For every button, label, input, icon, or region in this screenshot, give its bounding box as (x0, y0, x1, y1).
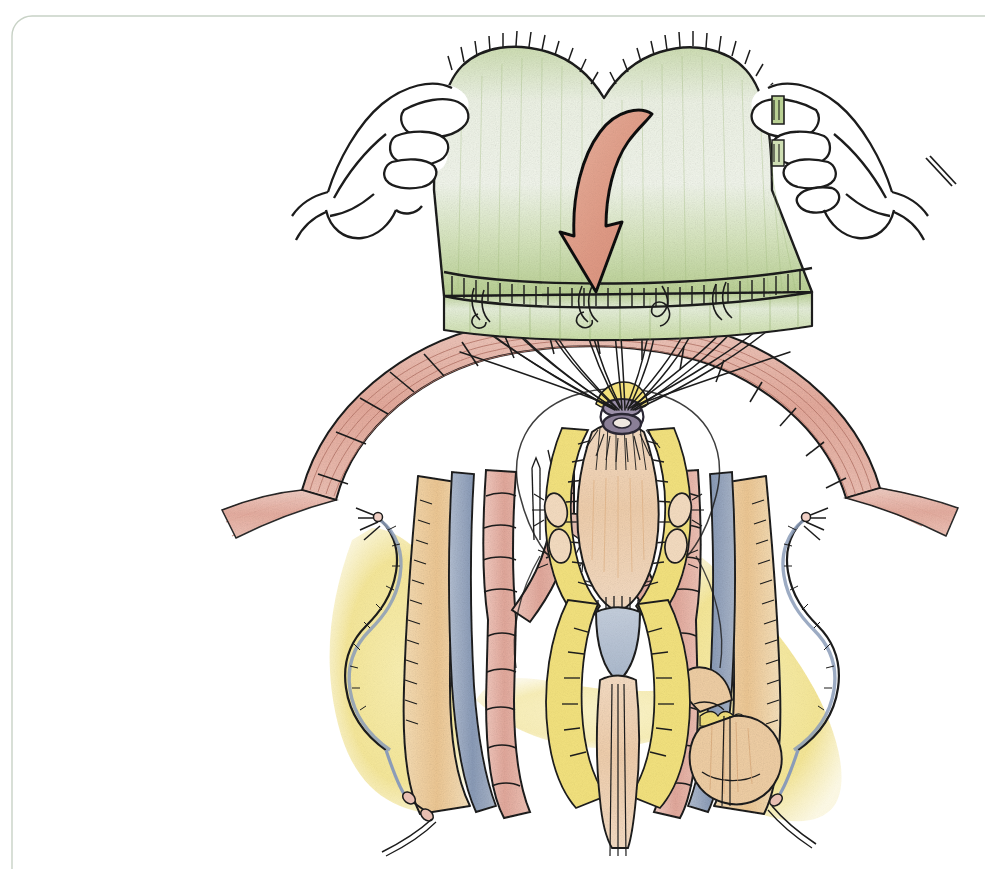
surgical-illustration (0, 0, 985, 869)
figure-frame (0, 0, 985, 869)
